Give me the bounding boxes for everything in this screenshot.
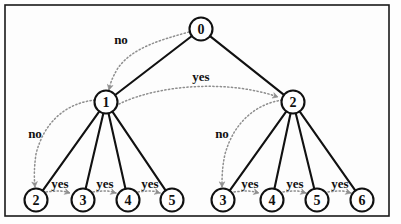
diagram-canvas: 01223453456 noyesnoyesyesyesnoyesyesyes [0,0,401,224]
annotation-label-a-no-root-n1: no [114,32,128,47]
node-label-r-leaf4: 4 [269,193,276,208]
annotation-label-a-yes-leaf2-leaf3: yes [51,176,68,191]
tree-node-n1[interactable]: 1 [95,91,118,114]
annotation-label-a-yes-rleaf4-rleaf5: yes [286,176,303,191]
annotation-label-a-no-n1-leaf2: no [28,126,42,141]
node-label-l-leaf4: 4 [125,193,132,208]
node-label-root: 0 [198,22,205,37]
node-label-n1: 1 [103,95,110,110]
annotation-label-a-yes-n1-n2: yes [192,69,209,84]
annotation-label-a-yes-rleaf3-rleaf4: yes [241,176,258,191]
node-label-l-leaf3: 3 [80,193,87,208]
annotation-label-a-yes-leaf4-leaf5: yes [141,176,158,191]
tree-node-n2[interactable]: 2 [282,91,305,114]
tree-node-r-leaf5[interactable]: 5 [306,189,329,212]
tree-node-l-leaf5[interactable]: 5 [161,189,184,212]
node-label-r-leaf5: 5 [314,193,321,208]
tree-node-r-leaf3[interactable]: 3 [212,189,235,212]
node-label-l-leaf5: 5 [169,193,176,208]
tree-node-l-leaf2[interactable]: 2 [25,189,48,212]
tree-node-l-leaf4[interactable]: 4 [117,189,140,212]
tree-node-l-leaf3[interactable]: 3 [72,189,95,212]
tree-node-r-leaf4[interactable]: 4 [261,189,284,212]
node-label-l-leaf2: 2 [33,193,40,208]
tree-node-root[interactable]: 0 [190,18,213,41]
tree-node-r-leaf6[interactable]: 6 [351,189,374,212]
node-label-r-leaf3: 3 [220,193,227,208]
annotation-label-a-yes-leaf3-leaf4: yes [96,176,113,191]
tree-diagram-figure: 01223453456 noyesnoyesyesyesnoyesyesyes [0,0,401,224]
annotation-label-a-no-n2-leaf3: no [215,126,229,141]
annotation-label-a-yes-rleaf5-rleaf6: yes [331,176,348,191]
node-label-n2: 2 [290,95,297,110]
node-label-r-leaf6: 6 [359,193,366,208]
